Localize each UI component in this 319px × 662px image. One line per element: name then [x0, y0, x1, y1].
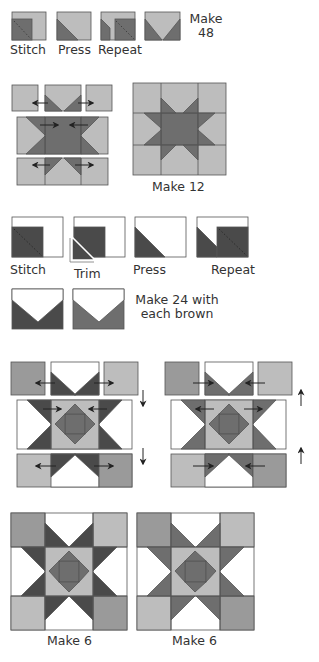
step5-right-assembly	[165, 362, 292, 487]
step4-result-line2: each brown	[134, 307, 220, 321]
step4-result-label: Make 24 with each brown	[134, 293, 220, 321]
step5-left-assembly	[11, 362, 138, 487]
step3-label-stitch: Stitch	[10, 263, 46, 277]
step2-result-block	[133, 83, 226, 175]
final-block-2	[137, 513, 254, 630]
step1-result-label: Make 48	[188, 12, 224, 40]
final-label-1: Make 6	[47, 634, 92, 648]
step3-label-press: Press	[133, 263, 166, 277]
step3-press-unit	[135, 217, 186, 257]
step1-result-line2: 48	[188, 26, 224, 40]
step4-result-line1: Make 24 with	[134, 293, 220, 307]
step2-assembly	[12, 85, 112, 185]
final-block-1	[11, 513, 127, 630]
step4-unit-2	[73, 289, 124, 329]
step4-unit-1	[12, 289, 63, 329]
step1-result-unit	[145, 12, 180, 40]
step1-press-unit	[57, 12, 91, 40]
step1-repeat-unit	[101, 12, 135, 40]
step3-repeat-unit	[197, 217, 248, 257]
step1-label-repeat: Repeat	[98, 43, 142, 57]
step1-result-line1: Make	[188, 12, 224, 26]
quilt-diagram	[0, 0, 319, 662]
step2-result-label: Make 12	[152, 180, 205, 194]
step3-label-trim: Trim	[74, 267, 101, 281]
step1-label-stitch: Stitch	[10, 43, 46, 57]
step3-trim-unit	[70, 217, 125, 262]
step3-label-repeat: Repeat	[211, 263, 255, 277]
step1-stitch-unit	[12, 12, 46, 40]
final-label-2: Make 6	[172, 634, 217, 648]
step1-label-press: Press	[58, 43, 91, 57]
step3-stitch-unit	[12, 217, 63, 257]
